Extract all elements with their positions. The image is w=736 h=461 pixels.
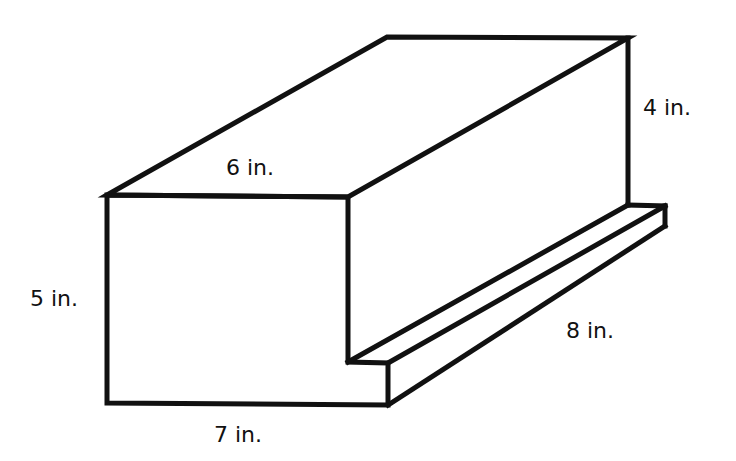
top-depth-label: 6 in. [226, 157, 274, 179]
top-face [107, 37, 628, 197]
bottom-width-label: 7 in. [214, 424, 262, 446]
front-face [107, 195, 388, 405]
prism-diagram [0, 0, 736, 461]
length-label: 8 in. [566, 320, 614, 342]
back-height-label: 4 in. [643, 97, 691, 119]
ledge-front-long-edge [388, 206, 665, 363]
ledge-back-edge [628, 205, 665, 206]
front-height-label: 5 in. [30, 288, 78, 310]
